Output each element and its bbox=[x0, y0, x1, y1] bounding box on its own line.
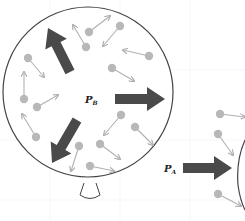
molecule-dot bbox=[96, 140, 104, 148]
molecule-dot bbox=[20, 95, 28, 103]
molecule-dot bbox=[214, 190, 222, 198]
molecule-dot bbox=[216, 110, 224, 118]
molecule-dot bbox=[214, 130, 222, 138]
molecule-dot bbox=[85, 28, 93, 36]
molecule-dot bbox=[82, 43, 90, 51]
molecule-dot bbox=[116, 22, 124, 30]
balloon-knot bbox=[80, 183, 100, 199]
gas-molecule bbox=[214, 130, 233, 155]
molecule-dot bbox=[117, 111, 125, 119]
molecule-dot bbox=[75, 142, 83, 150]
molecule-dot bbox=[33, 103, 41, 111]
pressure-label-outside: PA bbox=[163, 163, 177, 175]
molecule-dot bbox=[108, 64, 116, 72]
molecule-dot bbox=[32, 133, 40, 141]
molecule-dot bbox=[145, 52, 153, 60]
balloon-pressure-diagram: PB PA bbox=[0, 0, 245, 221]
second-balloon-edge bbox=[238, 140, 245, 210]
gas-molecule bbox=[216, 110, 245, 118]
molecule-dot bbox=[131, 123, 139, 131]
gas-molecule bbox=[214, 190, 241, 206]
molecule-dot bbox=[86, 162, 94, 170]
molecule-dot bbox=[24, 54, 32, 62]
pressure-arrow-outside-right-icon bbox=[183, 156, 232, 180]
